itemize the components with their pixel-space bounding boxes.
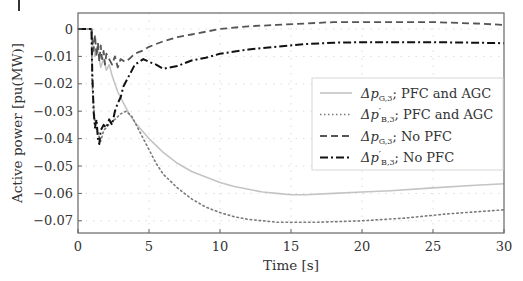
x-tick-label: 5 [145,239,153,254]
x-tick-label: 10 [212,239,229,254]
x-axis-label: Time [s] [263,257,319,273]
legend-label: ΔpG,3; No PFC [360,129,452,146]
x-tick-label: 25 [425,239,442,254]
x-tick-label: 0 [74,239,82,254]
y-tick-label: −0.01 [33,49,73,64]
legend: ΔpG,3; PFC and AGCΔp′B,3; PFC and AGCΔpG… [312,78,503,170]
y-axis-ticks: 0−0.01−0.02−0.03−0.04−0.05−0.06−0.07 [33,22,82,229]
y-tick-label: −0.04 [33,131,73,146]
x-tick-label: 20 [354,239,371,254]
y-tick-label: −0.05 [33,159,73,174]
y-tick-label: −0.06 [33,186,73,201]
y-axis-label: Active power [pu(MW)] [9,43,25,204]
y-tick-label: −0.03 [33,104,73,119]
x-tick-label: 30 [496,239,513,254]
line-chart: 051015202530 0−0.01−0.02−0.03−0.04−0.05−… [0,0,523,281]
y-tick-label: 0 [65,22,73,37]
legend-label: Δp′B,3; No PFC [360,149,454,167]
y-tick-label: −0.02 [33,76,73,91]
x-tick-label: 15 [283,239,300,254]
y-tick-label: −0.07 [33,213,73,228]
